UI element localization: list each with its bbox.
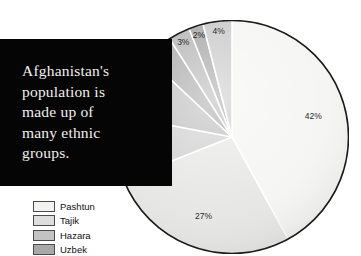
legend-item[interactable]: Hazara [33,228,153,243]
legend-item[interactable]: Pashtun [33,199,153,214]
legend-swatch [33,244,55,255]
legend: PashtunTajikHazaraUzbek [33,199,153,256]
pie-slice-label: 42% [305,111,322,121]
legend-item-label: Pashtun [60,201,95,212]
caption-panel: Afghanistan's population is made up of m… [0,39,172,186]
legend-item-label: Uzbek [60,244,87,255]
pie-slice-label: 2% [193,30,206,40]
legend-swatch [33,201,55,212]
legend-item-label: Hazara [60,230,91,241]
legend-item-label: Tajik [60,215,79,226]
pie-chart-figure: 42%27%9%9%4%3%2%4% Afghanistan's populat… [0,0,361,256]
legend-item[interactable]: Tajik [33,214,153,229]
legend-item[interactable]: Uzbek [33,243,153,256]
pie-slice-label: 4% [212,26,225,36]
pie-slice-label: 27% [195,211,212,221]
caption-text: Afghanistan's population is made up of m… [22,61,150,164]
legend-swatch [33,215,55,226]
legend-swatch [33,230,55,241]
pie-slice-label: 3% [177,37,190,47]
